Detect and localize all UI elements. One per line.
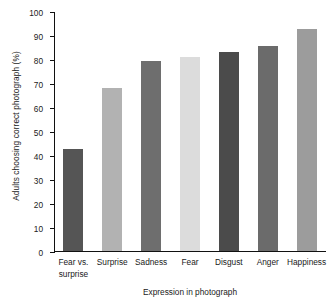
bar-chart: Adults choosing correct photograph (%) 0…	[0, 0, 335, 305]
y-tick-label: 80	[34, 56, 43, 64]
x-axis-line	[54, 251, 326, 252]
plot-area: 0102030405060708090100	[54, 12, 326, 252]
category-label-line: surprise	[44, 269, 102, 281]
category-label-line: Anger	[257, 257, 279, 267]
y-tick-label: 10	[34, 224, 43, 232]
category-label-line: Happiness	[287, 257, 326, 267]
bar	[297, 29, 317, 251]
bar	[102, 88, 122, 251]
y-tick-mark: 100	[50, 12, 54, 13]
x-axis-title: Expression in photograph	[54, 287, 326, 297]
y-tick-mark: 20	[50, 204, 54, 205]
y-tick-mark: 40	[50, 156, 54, 157]
y-tick-label: 20	[34, 200, 43, 208]
y-tick-label: 30	[34, 176, 43, 184]
y-axis-line	[54, 12, 55, 253]
y-tick-mark: 60	[50, 108, 54, 109]
y-tick-mark: 50	[50, 132, 54, 133]
y-tick-mark: 90	[50, 36, 54, 37]
category-label-line: Fear	[181, 257, 198, 267]
y-tick-label: 50	[34, 128, 43, 136]
y-tick-mark: 70	[50, 84, 54, 85]
y-tick-mark: 30	[50, 180, 54, 181]
y-tick-label: 100	[29, 8, 43, 16]
y-tick-mark: 80	[50, 60, 54, 61]
y-tick-label: 0	[38, 248, 43, 256]
x-axis-category-label: Happiness	[278, 257, 335, 269]
bar	[258, 46, 278, 251]
y-tick-label: 40	[34, 152, 43, 160]
y-tick-label: 70	[34, 80, 43, 88]
bar	[141, 61, 161, 251]
y-tick-mark: 10	[50, 228, 54, 229]
bar	[219, 52, 239, 251]
bar	[63, 149, 83, 251]
bar	[180, 57, 200, 251]
y-tick-mark: 0	[50, 252, 54, 253]
y-tick-label: 90	[34, 32, 43, 40]
y-axis-title: Adults choosing correct photograph (%)	[11, 6, 21, 246]
y-tick-label: 60	[34, 104, 43, 112]
